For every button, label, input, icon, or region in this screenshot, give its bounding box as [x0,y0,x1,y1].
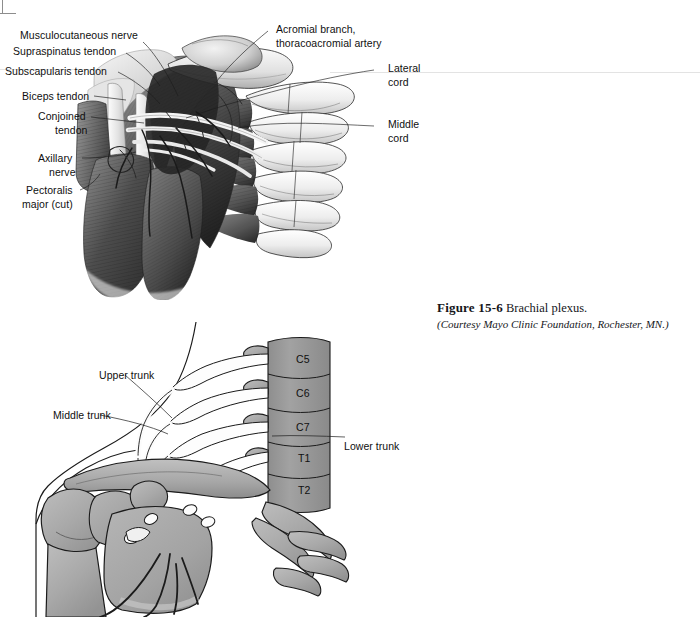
ribs [252,502,349,596]
label-middle-cord-line1: Middle [388,118,419,131]
label-pectoralis-major-line2: major (cut) [22,198,73,211]
dissection-artwork [76,36,354,300]
humerus-shaft [46,544,106,617]
label-lower-trunk: Lower trunk [344,440,399,453]
label-conjoined-tendon-line2: tendon [55,124,87,137]
label-middle-cord-line2: cord [388,132,409,145]
label-axillary-nerve-line1: Axillary [38,152,72,165]
label-lateral-cord-line2: cord [388,76,409,89]
label-supraspinatus-tendon: Supraspinatus tendon [13,45,116,58]
label-vertebra-c5: C5 [296,353,310,366]
label-vertebra-c6: C6 [296,387,310,400]
lower-plexus-diagram [0,300,700,617]
plexus-schematic-artwork [36,322,349,617]
label-acromial-branch-line1: Acromial branch, [276,23,356,36]
label-pectoralis-major-line1: Pectoralis [26,184,73,197]
label-vertebra-t2: T2 [298,484,310,497]
label-vertebra-t1: T1 [298,452,310,465]
label-upper-trunk: Upper trunk [99,369,154,382]
figure-page: Musculocutaneous nerve Supraspinatus ten… [0,0,700,617]
label-axillary-nerve-line2: nerve [49,166,76,179]
label-musculocutaneous-nerve: Musculocutaneous nerve [20,29,138,42]
label-vertebra-c7: C7 [296,421,310,434]
label-acromial-branch-line2: thoracoacromial artery [276,37,382,50]
label-subscapularis-tendon: Subscapularis tendon [5,65,107,78]
label-lateral-cord-line1: Lateral [388,62,420,75]
label-biceps-tendon: Biceps tendon [22,90,89,103]
label-middle-trunk: Middle trunk [53,409,111,422]
rib-cage [246,82,354,258]
label-conjoined-tendon-line1: Conjoined [38,110,86,123]
